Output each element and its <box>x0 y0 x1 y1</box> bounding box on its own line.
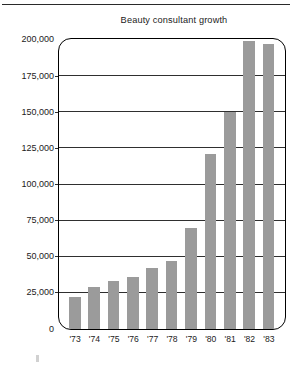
bar <box>69 297 81 329</box>
y-axis-tick-label: 125,000 <box>0 143 54 153</box>
x-axis-tick-label: '80 <box>205 334 216 344</box>
x-axis-tick-label: '74 <box>89 334 100 344</box>
y-axis-tick-label: 200,000 <box>0 34 54 44</box>
bar <box>108 281 120 329</box>
page-top-divider <box>2 4 290 5</box>
bar <box>166 261 178 329</box>
bar <box>127 277 139 329</box>
plot-area <box>59 39 285 329</box>
x-axis-tick-label: '75 <box>108 334 119 344</box>
bar <box>185 228 197 329</box>
y-axis-tick-labels: 025,00050,00075,000100,000125,000150,000… <box>0 38 54 330</box>
y-axis-tick-label: 25,000 <box>0 287 54 297</box>
x-axis-tick-label: '82 <box>244 334 255 344</box>
y-axis-tick-label: 100,000 <box>0 179 54 189</box>
x-axis-tick-label: '79 <box>186 334 197 344</box>
plot-frame <box>58 38 286 330</box>
y-axis-tick-label: 175,000 <box>0 71 54 81</box>
x-axis-tick-label: '76 <box>128 334 139 344</box>
y-axis-tick-label: 75,000 <box>0 215 54 225</box>
x-axis-tick-label: '77 <box>147 334 158 344</box>
y-axis-tick-label: 0 <box>0 324 54 334</box>
scan-artifact <box>36 355 39 362</box>
bar-series <box>59 39 285 329</box>
bar <box>88 287 100 329</box>
x-axis-tick-label: '83 <box>263 334 274 344</box>
bar <box>146 268 158 329</box>
bar <box>205 154 217 329</box>
x-axis-tick-label: '78 <box>166 334 177 344</box>
x-axis-tick-labels: '73'74'75'76'77'78'79'80'81'82'83 <box>58 334 286 350</box>
bar <box>243 41 255 329</box>
bar <box>263 44 275 329</box>
y-axis-tick-label: 150,000 <box>0 107 54 117</box>
bar <box>224 112 236 329</box>
y-axis-tick-label: 50,000 <box>0 251 54 261</box>
x-axis-tick-label: '73 <box>69 334 80 344</box>
chart-figure: Beauty consultant growth 025,00050,00075… <box>0 0 293 367</box>
chart-title: Beauty consultant growth <box>60 15 288 25</box>
x-axis-tick-label: '81 <box>225 334 236 344</box>
